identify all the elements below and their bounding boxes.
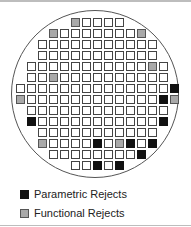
die-good: [60, 84, 69, 93]
die-good: [115, 117, 124, 126]
legend-label: Functional Rejects: [34, 207, 125, 219]
die-good: [159, 84, 168, 93]
die-good: [82, 139, 91, 148]
die-good: [126, 40, 135, 49]
die-good: [93, 51, 102, 60]
die-good: [104, 95, 113, 104]
die-good: [71, 40, 80, 49]
die-good: [82, 128, 91, 137]
die-good: [60, 128, 69, 137]
die-good: [82, 84, 91, 93]
die-good: [82, 106, 91, 115]
die-good: [27, 62, 36, 71]
die-good: [82, 95, 91, 104]
die-good: [71, 51, 80, 60]
die-good: [104, 161, 113, 170]
die-good: [82, 62, 91, 71]
die-good: [49, 95, 58, 104]
die-functional: [71, 18, 80, 27]
die-good: [93, 18, 102, 27]
die-parametric: [27, 117, 36, 126]
die-good: [38, 106, 47, 115]
die-good: [49, 150, 58, 159]
die-parametric: [170, 84, 179, 93]
die-good: [104, 73, 113, 82]
die-good: [148, 51, 157, 60]
die-good: [115, 62, 124, 71]
die-good: [159, 73, 168, 82]
die-parametric: [115, 161, 124, 170]
die-parametric: [159, 117, 168, 126]
die-good: [126, 62, 135, 71]
die-good: [93, 29, 102, 38]
die-good: [104, 150, 113, 159]
die-good: [49, 139, 58, 148]
die-good: [93, 73, 102, 82]
die-good: [71, 150, 80, 159]
die-good: [49, 106, 58, 115]
die-good: [148, 106, 157, 115]
die-good: [126, 106, 135, 115]
die-functional: [170, 95, 179, 104]
die-good: [115, 29, 124, 38]
parametric-swatch-icon: [20, 190, 29, 199]
die-good: [137, 62, 146, 71]
die-good: [115, 95, 124, 104]
die-good: [16, 84, 25, 93]
die-good: [27, 84, 36, 93]
die-good: [104, 117, 113, 126]
die-good: [93, 84, 102, 93]
die-good: [148, 40, 157, 49]
die-good: [137, 84, 146, 93]
die-good: [82, 51, 91, 60]
die-good: [49, 84, 58, 93]
die-good: [137, 51, 146, 60]
die-good: [115, 51, 124, 60]
die-good: [93, 106, 102, 115]
die-good: [60, 73, 69, 82]
die-good: [60, 29, 69, 38]
die-good: [93, 150, 102, 159]
die-good: [137, 117, 146, 126]
die-good: [104, 29, 113, 38]
die-good: [71, 62, 80, 71]
legend: Parametric Rejects Functional Rejects: [20, 187, 127, 225]
die-good: [126, 117, 135, 126]
die-good: [126, 95, 135, 104]
die-good: [60, 40, 69, 49]
die-parametric: [137, 150, 146, 159]
die-good: [38, 95, 47, 104]
die-good: [82, 18, 91, 27]
die-good: [71, 106, 80, 115]
die-parametric: [93, 161, 102, 170]
die-good: [71, 161, 80, 170]
die-good: [137, 139, 146, 148]
legend-item-functional: Functional Rejects: [20, 206, 127, 220]
die-good: [104, 18, 113, 27]
die-good: [93, 62, 102, 71]
die-good: [27, 106, 36, 115]
die-good: [104, 128, 113, 137]
die-good: [38, 84, 47, 93]
die-good: [126, 73, 135, 82]
die-good: [137, 95, 146, 104]
die-good: [126, 150, 135, 159]
die-good: [60, 117, 69, 126]
die-good: [115, 150, 124, 159]
die-good: [137, 128, 146, 137]
die-good: [126, 84, 135, 93]
die-good: [38, 73, 47, 82]
die-good: [71, 139, 80, 148]
die-good: [115, 84, 124, 93]
die-functional: [38, 139, 47, 148]
die-good: [82, 117, 91, 126]
die-good: [93, 117, 102, 126]
die-good: [137, 106, 146, 115]
die-good: [60, 95, 69, 104]
die-functional: [148, 62, 157, 71]
legend-item-parametric: Parametric Rejects: [20, 187, 127, 201]
die-good: [104, 40, 113, 49]
die-functional: [115, 139, 124, 148]
die-good: [38, 128, 47, 137]
bottom-divider: [0, 225, 191, 226]
